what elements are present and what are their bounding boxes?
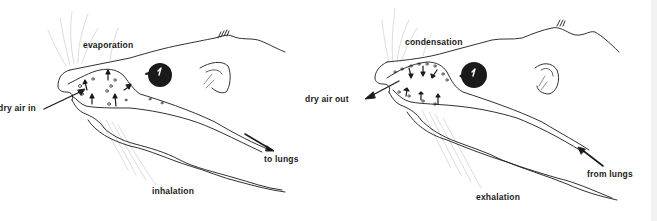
label-dry-air-in: dry air in [0, 103, 36, 113]
label-to-lungs: to lungs [264, 154, 299, 164]
eye-icon [148, 63, 172, 87]
label-exhalation: exhalation [476, 192, 520, 202]
arrow-from-lungs [581, 149, 603, 166]
right-edge-strip [651, 0, 657, 221]
panel-inhalation: evaporation dry air in to lungs inhalati… [0, 0, 330, 221]
label-inhalation: inhalation [152, 186, 194, 196]
ear-icon [200, 62, 230, 92]
label-evaporation: evaporation [83, 40, 133, 50]
label-from-lungs: from lungs [587, 169, 633, 179]
label-condensation: condensation [405, 37, 463, 47]
rat-head-exhalation-drawing [327, 0, 657, 221]
label-dry-air-out: dry air out [305, 94, 349, 104]
panel-exhalation: condensation dry air out from lungs exha… [327, 0, 657, 221]
whiskers-icon [48, 12, 156, 185]
whiskers-icon [382, 8, 481, 188]
